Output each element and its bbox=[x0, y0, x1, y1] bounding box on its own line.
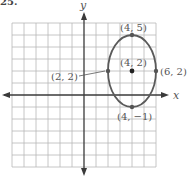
label-center: (4, 2) bbox=[120, 57, 147, 68]
problem-number: 25. bbox=[0, 0, 17, 7]
point-right bbox=[154, 69, 158, 73]
x-axis-left-arrow-icon bbox=[2, 92, 10, 98]
y-axis-down-arrow-icon bbox=[81, 168, 87, 176]
y-axis-label: y bbox=[79, 0, 87, 12]
label-right: (6, 2) bbox=[160, 66, 187, 77]
x-axis-right-arrow-icon bbox=[161, 92, 169, 98]
point-center bbox=[130, 69, 135, 74]
point-left bbox=[106, 69, 110, 73]
ellipse-graph: 25. x y bbox=[0, 0, 192, 181]
y-axis-up-arrow-icon bbox=[81, 12, 87, 20]
leader-line bbox=[79, 71, 105, 76]
point-top bbox=[130, 33, 134, 37]
point-bottom bbox=[130, 105, 134, 109]
label-left: (2, 2) bbox=[51, 71, 78, 82]
label-top: (4, 5) bbox=[120, 22, 147, 33]
label-bottom: (4, −1) bbox=[117, 111, 152, 122]
x-axis-label: x bbox=[173, 89, 180, 102]
